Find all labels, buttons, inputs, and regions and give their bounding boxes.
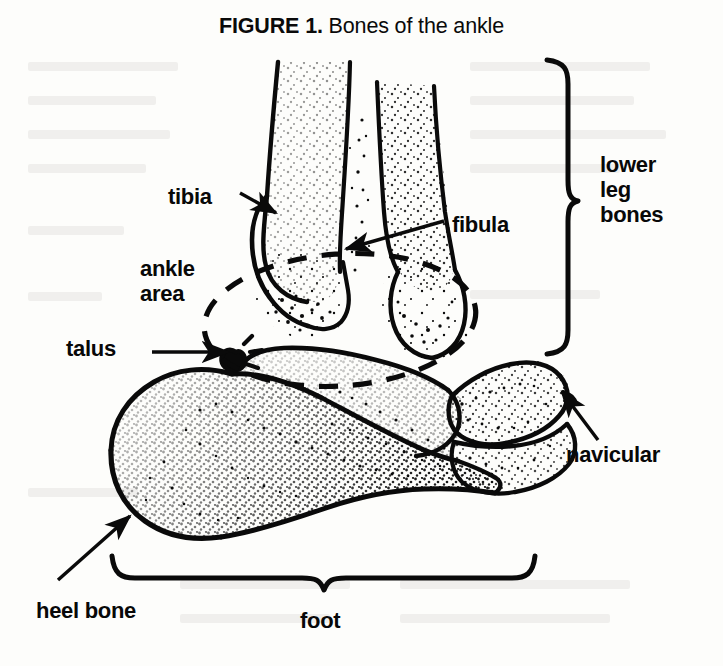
ankle-bone-illustration	[0, 0, 723, 666]
label-heel-bone: heel bone	[36, 598, 136, 623]
label-fibula: fibula	[452, 212, 509, 237]
label-lower-leg-bones: lower leg bones	[600, 152, 663, 227]
label-foot: foot	[300, 608, 340, 633]
figure-ankle-bones: FIGURE 1. Bones of the ankle	[0, 0, 723, 666]
label-ankle-area: ankle area	[140, 256, 195, 306]
tibia-bone	[244, 55, 370, 350]
label-talus: talus	[66, 336, 116, 361]
label-navicular: navicular	[566, 442, 660, 467]
interosseous-stipple	[349, 118, 370, 271]
label-tibia: tibia	[168, 184, 212, 209]
